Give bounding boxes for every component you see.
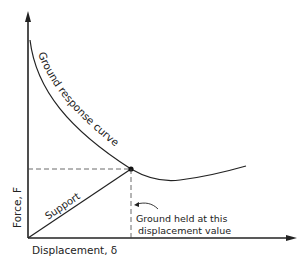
annotation-line-2: displacement value [138,225,231,236]
y-axis-arrow-icon [25,11,31,22]
y-axis [25,11,31,238]
annotation-line-1: Ground held at this [136,213,227,224]
diagram-canvas: Ground response curve Support Force, F D… [0,0,307,263]
annotation-pointer-arrow [137,203,158,209]
ground-response-curve [30,40,246,181]
x-axis-label: Displacement, δ [32,244,117,256]
support-line [28,169,131,238]
x-axis-arrow-icon [286,235,297,241]
annotation-arrowhead-icon [134,202,139,207]
y-axis-label: Force, F [11,187,23,228]
ground-response-curve-label: Ground response curve [36,50,121,148]
